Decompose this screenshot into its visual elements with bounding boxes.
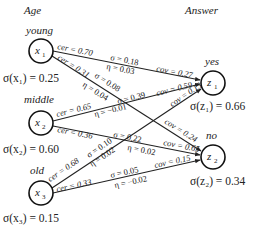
output-group-header: Answer [184, 4, 219, 16]
support-x2: σ(x₂) = 0.60 [3, 143, 59, 156]
node-label-x1: x [34, 44, 40, 56]
node-label-z2: z [206, 150, 212, 162]
category-old: old [30, 164, 45, 176]
edge-x2-z1-eta: η = −0.01 [93, 101, 128, 119]
svg-text:1: 1 [42, 51, 46, 59]
input-group-header: Age [23, 4, 41, 16]
support-z2: σ(z₂) = 0.34 [190, 175, 246, 188]
category-young: young [25, 24, 53, 36]
edge-x2-z2-eta: η = 0.02 [127, 142, 157, 157]
node-label-x2: x [34, 116, 40, 128]
support-z1: σ(z₁) = 0.66 [190, 100, 246, 113]
edge-x3-z2-cer: cer = 0.33 [55, 177, 92, 194]
support-x3: σ(x₃) = 0.15 [3, 212, 59, 225]
node-label-x3: x [34, 186, 40, 198]
svg-text:3: 3 [42, 193, 46, 201]
input-node-x1: young x 1 σ(x₁) = 0.25 [3, 24, 59, 85]
edge-x3-z2-cov: cov = 0.15 [153, 153, 191, 170]
category-yes: yes [204, 55, 219, 67]
input-node-x2: middle x 2 σ(x₂) = 0.60 [3, 93, 59, 156]
category-no: no [206, 129, 218, 141]
category-middle: middle [24, 93, 54, 105]
support-x1: σ(x₁) = 0.25 [3, 72, 59, 85]
node-label-z1: z [206, 76, 212, 88]
edge-x2-z2-cer: cer = 0.36 [57, 124, 95, 141]
svg-text:2: 2 [214, 157, 218, 165]
svg-text:1: 1 [214, 83, 218, 91]
edge-x1-z1-cov: cov = 0.27 [156, 63, 195, 80]
svg-text:2: 2 [42, 123, 46, 131]
output-node-z2: no z 2 σ(z₂) = 0.34 [190, 129, 246, 188]
flow-graph-diagram: Age Answer cer = 0.70 σ = 0.18 η = 0.03 … [0, 0, 259, 231]
